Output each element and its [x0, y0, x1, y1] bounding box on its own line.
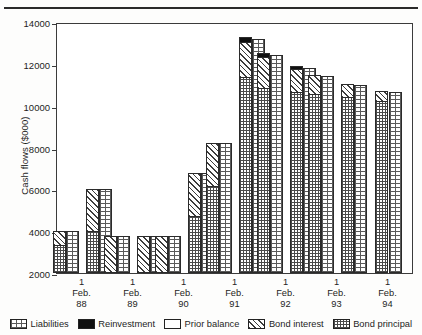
top-rule-divider — [4, 7, 418, 9]
y-axis-tick — [52, 24, 57, 25]
bar-assets — [53, 231, 66, 273]
segment-liabilities — [355, 85, 366, 272]
legend-item[interactable]: Bond interest — [248, 319, 323, 329]
bar-liabilities — [389, 92, 402, 273]
segment-bond-principal — [240, 78, 251, 272]
segment-liabilities — [169, 236, 180, 272]
segment-bond-interest — [156, 236, 167, 272]
plot-inner — [57, 24, 412, 273]
bar-liabilities — [219, 143, 232, 273]
x-axis-tick-label: 1Feb.91 — [209, 277, 260, 311]
legend-item[interactable]: Reinvestment — [78, 319, 155, 329]
bar-assets — [104, 236, 117, 273]
segment-liabilities — [118, 236, 129, 272]
bar-liabilities — [66, 231, 79, 273]
y-axis-tick — [52, 191, 57, 192]
bar-assets — [86, 189, 99, 273]
swatch-liabilities — [10, 319, 27, 329]
y-axis-tick-label: 6000 — [0, 185, 50, 196]
segment-bond-principal — [309, 95, 320, 272]
y-axis-tick — [52, 275, 57, 276]
segment-reinvestment — [291, 66, 302, 70]
segment-bond-interest — [87, 189, 98, 231]
segment-bond-principal — [189, 217, 200, 272]
segment-bond-principal — [54, 246, 65, 272]
x-axis-tick-label-year: 90 — [158, 299, 209, 310]
bar-assets — [239, 37, 252, 273]
y-axis-tick — [52, 150, 57, 151]
segment-bond-principal — [87, 232, 98, 272]
legend-item-label: Liabilities — [31, 319, 69, 329]
y-axis-tick — [52, 66, 57, 67]
swatch-bond-principal — [333, 319, 350, 329]
x-axis-tick-label-year: 94 — [362, 299, 413, 310]
x-axis-tick-label-month: Feb. — [107, 288, 158, 299]
x-axis-tick-label: 1Feb.90 — [158, 277, 209, 311]
segment-reinvestment — [258, 53, 269, 57]
segment-bond-interest — [189, 173, 200, 217]
segment-liabilities — [220, 143, 231, 272]
y-axis-title: Cash flows ($000) — [19, 76, 30, 236]
x-axis-tick-label: 1Feb.93 — [311, 277, 362, 311]
x-axis-tick-label-month: Feb. — [158, 288, 209, 299]
y-axis-tick-label: 10000 — [0, 101, 50, 112]
segment-bond-interest — [342, 84, 353, 98]
segment-liabilities — [271, 55, 282, 272]
legend-item[interactable]: Liabilities — [10, 319, 69, 329]
y-axis-tick-label: 8000 — [0, 143, 50, 154]
segment-liabilities — [390, 92, 401, 272]
x-axis-tick-label: 1Feb.94 — [362, 277, 413, 311]
segment-bond-interest — [309, 75, 320, 95]
swatch-bond-interest — [248, 319, 265, 329]
segment-bond-interest — [105, 236, 116, 272]
x-axis-tick-label-year: 93 — [311, 299, 362, 310]
y-axis-tick-label: 2000 — [0, 269, 50, 280]
y-axis-tick — [52, 108, 57, 109]
y-axis-tick-label: 4000 — [0, 227, 50, 238]
x-axis-tick-label-year: 89 — [107, 299, 158, 310]
bar-liabilities — [117, 236, 130, 273]
chart-legend: LiabilitiesReinvestmentPrior balanceBond… — [10, 319, 414, 329]
segment-bond-principal — [291, 93, 302, 272]
legend-item-label: Reinvestment — [98, 319, 155, 329]
x-axis-tick-label-day: 1 — [311, 277, 362, 288]
x-axis-tick-label-month: Feb. — [209, 288, 260, 299]
segment-bond-principal — [207, 187, 218, 272]
legend-item-label: Prior balance — [185, 319, 240, 329]
legend-item[interactable]: Bond principal — [333, 319, 412, 329]
x-axis-tick-label: 1Feb.88 — [56, 277, 107, 311]
bar-assets — [257, 53, 270, 273]
legend-item-label: Bond interest — [269, 319, 324, 329]
bar-assets — [341, 84, 354, 273]
segment-bond-principal — [342, 98, 353, 272]
figure-canvas: Cash flows ($000) 2000400060008000100001… — [0, 0, 422, 335]
plot-area — [56, 23, 413, 274]
x-axis-tick-label-day: 1 — [209, 277, 260, 288]
segment-liabilities — [322, 76, 333, 272]
bar-assets — [188, 173, 201, 273]
segment-bond-interest — [138, 236, 149, 272]
segment-bond-interest — [240, 43, 251, 79]
y-axis-tick-label: 12000 — [0, 59, 50, 70]
x-axis-tick-label: 1Feb.89 — [107, 277, 158, 311]
x-axis-tick-label-year: 88 — [56, 299, 107, 310]
x-axis-tick-label-day: 1 — [56, 277, 107, 288]
segment-liabilities — [67, 231, 78, 272]
segment-reinvestment — [240, 37, 251, 43]
bar-assets — [155, 236, 168, 273]
x-axis-tick-label-day: 1 — [260, 277, 311, 288]
legend-item[interactable]: Prior balance — [164, 319, 239, 329]
x-axis-tick-label-year: 91 — [209, 299, 260, 310]
x-axis-tick-label-month: Feb. — [56, 288, 107, 299]
segment-bond-interest — [258, 58, 269, 90]
legend-item-label: Bond principal — [353, 319, 412, 329]
bar-liabilities — [270, 55, 283, 273]
x-axis-tick-label-year: 92 — [260, 299, 311, 310]
swatch-reinvestment — [78, 319, 95, 329]
segment-bond-interest — [207, 143, 218, 186]
swatch-prior-balance — [164, 319, 181, 329]
segment-bond-interest — [291, 70, 302, 93]
segment-bond-principal — [376, 102, 387, 272]
x-axis-tick-label-day: 1 — [158, 277, 209, 288]
bar-liabilities — [354, 85, 367, 273]
